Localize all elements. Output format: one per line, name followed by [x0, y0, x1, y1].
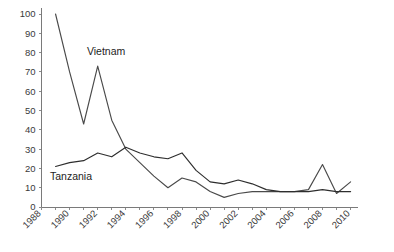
y-tick-label: 90 — [25, 28, 36, 39]
series-label-vietnam: Vietnam — [87, 45, 126, 57]
x-tick-label: 1994 — [104, 208, 127, 231]
x-tick-label: 1992 — [76, 208, 99, 231]
y-tick-label: 70 — [25, 66, 36, 77]
x-tick-label: 2002 — [217, 208, 240, 231]
x-tick-label: 1988 — [20, 208, 43, 231]
series-line-vietnam — [56, 14, 351, 197]
series-annotations: VietnamTanzania — [50, 45, 126, 182]
x-axis-labels: 1988199019921994199619982000200220042006… — [20, 208, 352, 231]
x-tick-label: 2000 — [189, 208, 212, 231]
line-chart: 0102030405060708090100 19881990199219941… — [0, 0, 394, 252]
x-tick-label: 2006 — [273, 208, 296, 231]
x-tick-label: 1998 — [161, 208, 184, 231]
x-tick-label: 2010 — [329, 208, 352, 231]
y-tick-label: 100 — [20, 8, 36, 19]
y-tick-label: 30 — [25, 144, 36, 155]
x-tick-label: 2008 — [301, 208, 324, 231]
x-tick-label: 2004 — [245, 208, 268, 231]
y-tick-label: 10 — [25, 182, 36, 193]
x-tick-label: 1996 — [133, 208, 156, 231]
y-axis-labels: 0102030405060708090100 — [20, 8, 36, 212]
y-tick-label: 50 — [25, 105, 36, 116]
series-label-tanzania: Tanzania — [50, 170, 92, 182]
y-tick-label: 80 — [25, 47, 36, 58]
series-group — [56, 14, 351, 197]
series-line-tanzania — [56, 147, 351, 191]
chart-canvas: 0102030405060708090100 19881990199219941… — [0, 0, 394, 252]
y-tick-label: 40 — [25, 124, 36, 135]
x-tick-label: 1990 — [48, 208, 71, 231]
y-tick-label: 20 — [25, 163, 36, 174]
y-tick-label: 60 — [25, 86, 36, 97]
